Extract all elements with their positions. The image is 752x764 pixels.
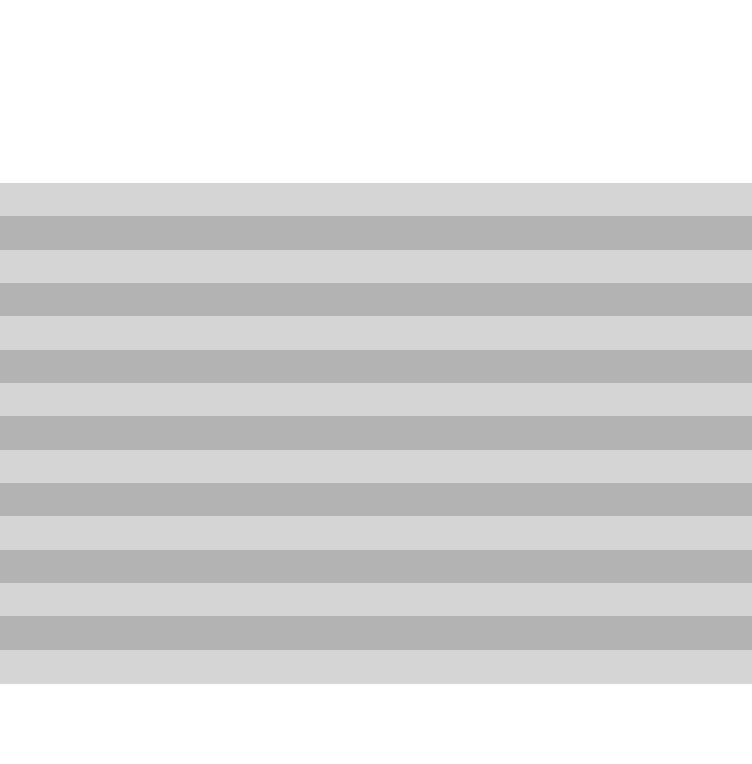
light-stripe <box>0 383 752 416</box>
dark-stripe <box>0 216 752 249</box>
dark-stripe <box>0 483 752 516</box>
light-stripe <box>0 650 752 683</box>
light-stripe <box>0 583 752 616</box>
striped-sheet <box>0 183 752 683</box>
dark-stripe <box>0 416 752 449</box>
dark-stripe <box>0 550 752 583</box>
light-stripe <box>0 183 752 216</box>
light-stripe <box>0 316 752 349</box>
dark-stripe <box>0 283 752 316</box>
dark-stripe <box>0 350 752 383</box>
light-stripe <box>0 450 752 483</box>
dark-stripe <box>0 616 752 649</box>
light-stripe <box>0 250 752 283</box>
light-stripe <box>0 516 752 549</box>
